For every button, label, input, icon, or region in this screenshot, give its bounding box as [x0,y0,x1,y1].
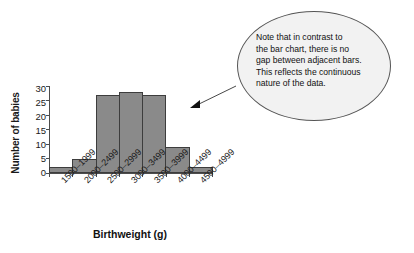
y-tick-mark [46,158,49,159]
y-tick-label: 30 [26,84,46,94]
y-tick-mark [46,86,49,87]
y-tick-mark [46,100,49,101]
y-axis-title: Number of babies [10,86,24,180]
y-tick-label: 10 [26,140,46,150]
x-axis-title: Birthweight (g) [0,228,260,240]
x-tick-mark [49,174,50,177]
annotation-line: nature of the data. [256,78,384,90]
y-tick-mark [46,144,49,145]
y-tick-label: 15 [26,126,46,136]
y-axis-line [49,86,50,174]
annotation-text: Note that in contrast tothe bar chart, t… [256,32,384,90]
y-tick-label: 5 [26,154,46,164]
annotation-line: the bar chart, there is no [256,44,384,56]
histogram-figure: Number of babies 30 25 20 15 10 5 0 1500… [0,0,414,253]
annotation-line: Note that in contrast to [256,32,384,44]
y-tick-label: 20 [26,112,46,122]
y-tick-label: 25 [26,98,46,108]
y-tick-mark [46,115,49,116]
y-tick-mark [46,129,49,130]
annotation-line: gap between adjacent bars. [256,55,384,67]
y-axis-tick-labels: 30 25 20 15 10 5 0 [26,0,46,253]
y-tick-label: 0 [26,168,46,178]
annotation-line: This reflects the continuous [256,67,384,79]
